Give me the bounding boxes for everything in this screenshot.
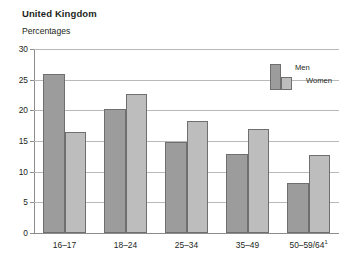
y-axis-tick-mark	[30, 172, 34, 173]
y-axis-tick-label: 5	[23, 197, 28, 207]
legend-swatch-women	[281, 77, 292, 90]
y-axis-tick-mark	[30, 141, 34, 142]
page-title: United Kingdom	[22, 8, 97, 19]
bar-men-4	[287, 183, 309, 233]
bar-women-3	[248, 129, 270, 233]
y-axis-tick-label: 0	[23, 228, 28, 238]
x-axis-label-4: 50–59/641	[289, 240, 327, 250]
bar-women-1	[126, 94, 148, 233]
x-axis-line	[34, 233, 339, 234]
x-axis-label-1: 18–24	[114, 240, 137, 250]
chart-subtitle: Percentages	[22, 26, 70, 36]
legend-label-women: Women	[306, 76, 332, 85]
y-axis-tick-label: 30	[19, 44, 28, 54]
y-axis-tick-mark	[30, 233, 34, 234]
bar-chart-figure: United Kingdom Percentages 051015202530 …	[0, 0, 350, 262]
gridline	[34, 110, 339, 111]
y-axis-tick-label: 20	[19, 105, 28, 115]
legend-label-men: Men	[295, 63, 310, 72]
y-axis-tick-mark	[30, 202, 34, 203]
chart-legend: Men Women	[270, 64, 348, 98]
x-axis-label-3: 35–49	[236, 240, 259, 250]
x-axis-label-2: 25–34	[175, 240, 198, 250]
y-axis-tick-mark	[30, 80, 34, 81]
bar-women-2	[187, 121, 209, 233]
bar-women-0	[65, 132, 87, 233]
bar-men-3	[226, 154, 248, 233]
bar-men-2	[165, 142, 187, 233]
y-axis-tick-mark	[30, 110, 34, 111]
gridline	[34, 49, 339, 50]
y-axis-tick-label: 10	[19, 167, 28, 177]
legend-swatch-men	[270, 64, 281, 90]
y-axis-tick-mark	[30, 49, 34, 50]
y-axis-tick-label: 25	[19, 75, 28, 85]
y-axis-tick-label: 15	[19, 136, 28, 146]
x-axis-label-footnote: 1	[324, 239, 327, 245]
bar-men-0	[43, 74, 65, 233]
bar-women-4	[309, 155, 331, 234]
bar-men-1	[104, 109, 126, 234]
x-axis-label-0: 16–17	[53, 240, 76, 250]
